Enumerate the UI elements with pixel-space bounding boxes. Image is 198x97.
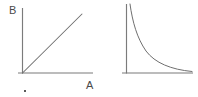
linear-data-line bbox=[23, 14, 83, 73]
inverse-decay-curve bbox=[130, 4, 192, 72]
figure-canvas: B A D C bbox=[0, 0, 198, 97]
x-axis-label-a: A bbox=[86, 80, 93, 91]
chart-right-svg bbox=[99, 0, 198, 97]
y-axis-label-b: B bbox=[9, 5, 16, 16]
chart-panel-left: B A bbox=[0, 0, 99, 97]
chart-panel-right: D C bbox=[99, 0, 198, 97]
stray-mark bbox=[24, 90, 26, 92]
